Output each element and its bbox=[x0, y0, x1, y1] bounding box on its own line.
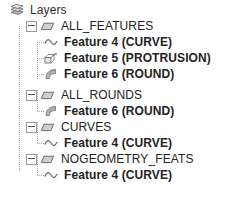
disc-icon bbox=[40, 155, 55, 164]
disc-icon bbox=[40, 22, 55, 31]
tree-node-label: CURVES bbox=[61, 119, 111, 135]
layers-icon bbox=[10, 4, 24, 16]
tree-node-all-features-feature-5[interactable]: Feature 5 (PROTRUSION) bbox=[44, 50, 211, 66]
tree-node-all-rounds-feature-6[interactable]: Feature 6 (ROUND) bbox=[44, 103, 174, 119]
collapse-toggle-all-features[interactable] bbox=[26, 21, 37, 32]
tree-node-label: Feature 6 (ROUND) bbox=[64, 66, 174, 82]
tree-node-all-features-feature-6[interactable]: Feature 6 (ROUND) bbox=[44, 66, 174, 82]
tree-node-label: Feature 4 (CURVE) bbox=[64, 167, 172, 183]
curve-icon bbox=[44, 138, 58, 148]
curve-icon bbox=[44, 170, 58, 180]
tree-node-label: Feature 5 (PROTRUSION) bbox=[64, 50, 211, 66]
tree-node-label: ALL_FEATURES bbox=[61, 18, 153, 34]
tree-trunk-line bbox=[19, 26, 20, 172]
tree-node-label: ALL_ROUNDS bbox=[61, 87, 142, 103]
tree-node-label: Feature 6 (ROUND) bbox=[64, 103, 174, 119]
tree-node-label: Layers bbox=[30, 2, 67, 18]
disc-icon bbox=[40, 91, 55, 100]
tree-node-all-rounds[interactable]: ALL_ROUNDS bbox=[26, 87, 142, 103]
round-icon bbox=[44, 105, 58, 117]
collapse-toggle-all-rounds[interactable] bbox=[26, 90, 37, 101]
layers-tree-panel: Layers ALL_FEATURES Feature 4 (CURVE) bbox=[0, 0, 243, 204]
tree-node-label: Feature 4 (CURVE) bbox=[64, 135, 172, 151]
tree-node-curves-feature-4[interactable]: Feature 4 (CURVE) bbox=[44, 135, 172, 151]
collapse-toggle-curves[interactable] bbox=[26, 122, 37, 133]
tree-node-all-features-feature-4[interactable]: Feature 4 (CURVE) bbox=[44, 34, 172, 50]
curve-icon bbox=[44, 37, 58, 47]
tree-node-label: Feature 4 (CURVE) bbox=[64, 34, 172, 50]
tree-node-label: NOGEOMETRY_FEATS bbox=[61, 151, 194, 167]
collapse-toggle-nogeometry-feats[interactable] bbox=[26, 154, 37, 165]
round-icon bbox=[44, 68, 58, 80]
tree-node-nogeometry-feats[interactable]: NOGEOMETRY_FEATS bbox=[26, 151, 194, 167]
tree-node-nogeometry-feats-feature-4[interactable]: Feature 4 (CURVE) bbox=[44, 167, 172, 183]
tree-node-curves[interactable]: CURVES bbox=[26, 119, 111, 135]
disc-icon bbox=[40, 123, 55, 132]
tree-node-all-features[interactable]: ALL_FEATURES bbox=[26, 18, 153, 34]
tree-node-layers[interactable]: Layers bbox=[10, 2, 67, 18]
protrusion-icon bbox=[44, 52, 58, 64]
